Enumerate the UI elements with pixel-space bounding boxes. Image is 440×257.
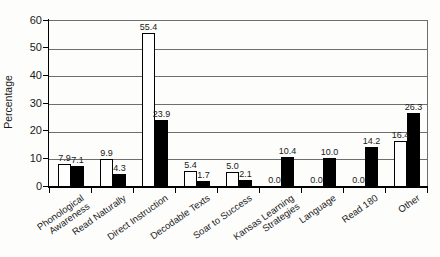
bar-chart-figure: Percentage 01020304050607.97.19.94.355.4… [0,0,440,257]
bar [394,141,407,186]
x-tick [427,188,428,193]
bar-value-label: 0.0 [302,175,332,185]
x-axis-label-text: Phonological Awareness [35,193,91,241]
bar [155,120,168,186]
y-tick [43,20,48,21]
x-tick [259,188,260,193]
x-tick [175,188,176,193]
bar-value-label: 4.3 [105,163,135,173]
gridline [49,132,427,133]
x-tick [91,188,92,193]
bar [113,174,126,186]
x-tick [49,188,50,193]
bar-value-label: 10.4 [273,146,303,156]
bar-value-label: 26.3 [399,102,429,112]
x-tick [301,188,302,193]
bar-value-label: 2.1 [231,169,261,179]
x-axis-label-text: Read 180 [340,193,379,225]
x-tick [385,188,386,193]
bar-value-label: 0.0 [344,175,374,185]
bar-value-label: 16.4 [386,130,416,140]
bar-value-label: 5.4 [176,160,206,170]
gridline [49,104,427,105]
bar-value-label: 10.0 [315,147,345,157]
x-axis-line [48,186,428,188]
bar-value-label: 0.0 [260,175,290,185]
y-tick-label: 50 [0,42,42,53]
y-tick [43,75,48,76]
bar-value-label: 7.1 [63,155,93,165]
x-axis-label-text: Other [397,193,422,215]
y-tick [43,130,48,131]
bar-value-label: 9.9 [92,148,122,158]
y-tick [43,47,48,48]
y-tick-label: 40 [0,70,42,81]
y-tick [43,103,48,104]
y-tick-label: 20 [0,125,42,136]
bar-value-label: 23.9 [147,109,177,119]
y-tick-label: 60 [0,15,42,26]
bar [407,113,420,186]
y-tick [43,158,48,159]
y-tick-label: 30 [0,98,42,109]
x-tick [133,188,134,193]
y-tick [43,186,48,187]
bar [71,166,84,186]
bar-value-label: 1.7 [189,170,219,180]
x-tick [343,188,344,193]
gridline [49,76,427,77]
x-axis-label-text: Language [297,193,337,225]
bar-value-label: 55.4 [134,22,164,32]
bar-value-label: 14.2 [357,136,387,146]
gridline [49,49,427,50]
bar [58,164,71,186]
y-tick-label: 0 [0,181,42,192]
x-tick [217,188,218,193]
y-tick-label: 10 [0,153,42,164]
